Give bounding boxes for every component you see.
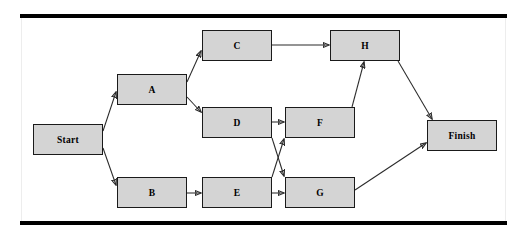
node-f[interactable]: F [285,107,355,138]
node-f-label: F [317,118,323,128]
edge-start-to-b [103,148,116,185]
node-finish[interactable]: Finish [427,120,497,151]
node-d[interactable]: D [202,107,272,138]
node-e-label: E [234,188,241,198]
node-h-label: H [361,41,369,51]
edge-h-to-finish [398,61,432,119]
node-e[interactable]: E [202,177,272,208]
node-a[interactable]: A [117,74,187,105]
node-start[interactable]: Start [33,124,103,155]
diagram-page: StartABCDEFGHFinish [0,0,525,235]
node-c-label: C [233,41,240,51]
edge-g-to-finish [355,143,426,190]
edge-a-to-c [187,51,201,82]
node-g[interactable]: G [285,177,355,208]
node-a-label: A [148,85,155,95]
node-c[interactable]: C [202,30,272,61]
node-h[interactable]: H [330,30,400,61]
node-g-label: G [316,188,324,198]
node-b-label: B [149,188,156,198]
edge-f-to-h [352,62,364,107]
node-d-label: D [233,118,240,128]
node-b[interactable]: B [117,177,187,208]
edge-a-to-d [187,97,201,112]
node-start-label: Start [57,135,79,145]
edge-start-to-a [103,92,116,131]
node-finish-label: Finish [448,131,475,141]
